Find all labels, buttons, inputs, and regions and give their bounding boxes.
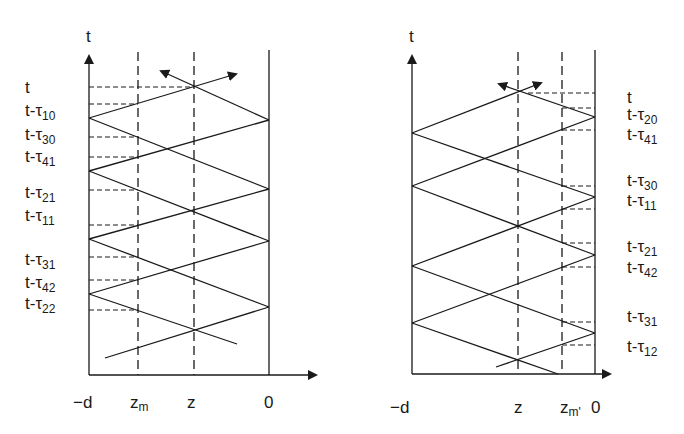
svg-text:0: 0	[264, 393, 273, 412]
svg-text:z: z	[514, 398, 523, 417]
svg-text:zm: zm	[130, 393, 149, 414]
svg-text:t-τ41: t-τ41	[627, 125, 658, 147]
left-time-markers	[89, 87, 194, 310]
right-ray-paths	[412, 83, 595, 374]
right-diagram	[412, 50, 610, 374]
svg-text:t-τ12: t-τ12	[627, 337, 658, 359]
svg-text:t-τ42: t-τ42	[627, 258, 658, 280]
svg-text:t-τ30: t-τ30	[627, 171, 658, 193]
svg-text:0: 0	[591, 398, 600, 417]
svg-text:t-τ31: t-τ31	[25, 250, 56, 272]
svg-text:zm': zm'	[560, 398, 581, 419]
svg-text:t-τ41: t-τ41	[25, 147, 56, 169]
svg-text:−d: −d	[73, 393, 92, 412]
ray-reflection-diagrams: t t t-τ10 t-τ30 t-τ41 t-τ21 t-τ11 t-τ31 …	[0, 0, 684, 434]
right-t-axis-label: t	[409, 27, 414, 46]
svg-text:t-τ11: t-τ11	[627, 191, 657, 213]
svg-text:−d: −d	[390, 398, 409, 417]
left-x-labels: −d zm z 0	[73, 393, 273, 414]
svg-text:t-τ30: t-τ30	[25, 125, 56, 147]
left-time-labels: t t-τ10 t-τ30 t-τ41 t-τ21 t-τ11 t-τ31 t-…	[25, 78, 56, 316]
svg-text:t-τ11: t-τ11	[25, 206, 55, 228]
svg-text:t-τ10: t-τ10	[25, 101, 56, 123]
svg-text:z: z	[187, 393, 196, 412]
left-ray-paths	[89, 71, 269, 358]
svg-text:t-τ20: t-τ20	[627, 105, 658, 127]
svg-text:t-τ42: t-τ42	[25, 273, 56, 295]
svg-text:t: t	[25, 78, 30, 97]
diagram-canvas: t t t-τ10 t-τ30 t-τ41 t-τ21 t-τ11 t-τ31 …	[0, 0, 684, 434]
svg-text:t-τ21: t-τ21	[627, 237, 658, 259]
svg-text:t-τ31: t-τ31	[627, 307, 658, 329]
left-diagram	[89, 50, 316, 375]
right-x-labels: −d z zm' 0	[390, 398, 600, 419]
svg-text:t-τ22: t-τ22	[25, 294, 56, 316]
right-time-labels: t t-τ20 t-τ41 t-τ30 t-τ11 t-τ21 t-τ42 t-…	[627, 88, 658, 359]
left-t-axis-label: t	[86, 27, 91, 46]
svg-text:t-τ21: t-τ21	[25, 183, 56, 205]
